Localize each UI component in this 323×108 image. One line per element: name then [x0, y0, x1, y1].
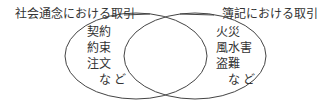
right-item: 火災 — [216, 25, 240, 39]
right-item: など — [228, 73, 258, 87]
right-item: 盗難 — [216, 57, 240, 71]
left-item: など — [99, 73, 129, 87]
right-item: 風水害 — [216, 41, 252, 55]
left-item: 契約 — [87, 25, 111, 39]
left-item: 注文 — [87, 57, 111, 71]
left-set-label: 社会通念における取引 — [15, 7, 135, 21]
right-set-label: 簿記における取引 — [222, 7, 318, 21]
left-item: 約束 — [87, 41, 111, 55]
